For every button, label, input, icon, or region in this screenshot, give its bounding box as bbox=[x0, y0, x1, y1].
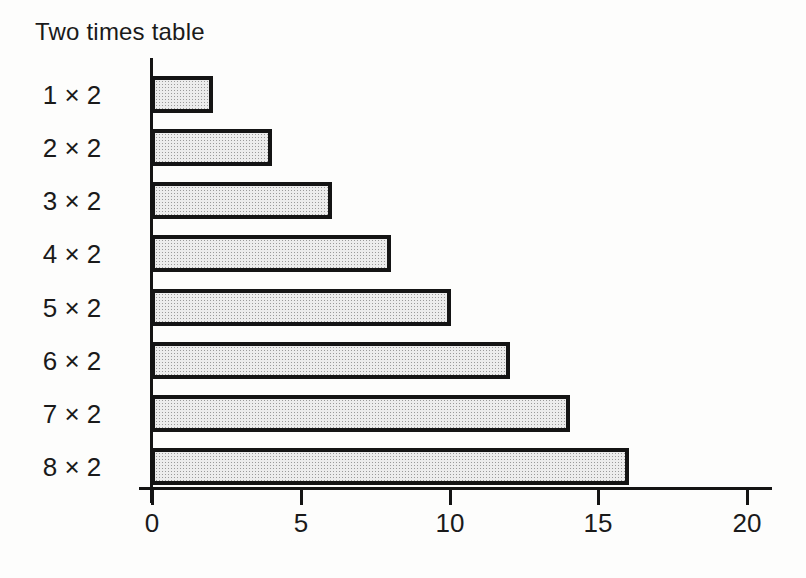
bar bbox=[151, 342, 510, 379]
y-axis-line bbox=[150, 58, 153, 503]
x-tick bbox=[597, 489, 600, 505]
category-label: 3 × 2 bbox=[22, 186, 122, 217]
chart-page: Two times table 1 × 22 × 23 × 24 × 25 × … bbox=[0, 0, 806, 578]
bar bbox=[151, 448, 629, 485]
x-tick-label: 10 bbox=[420, 508, 480, 539]
bar bbox=[151, 129, 272, 166]
x-axis-line bbox=[139, 487, 772, 490]
category-label: 5 × 2 bbox=[22, 293, 122, 324]
category-label: 8 × 2 bbox=[22, 452, 122, 483]
category-label: 6 × 2 bbox=[22, 346, 122, 377]
bar bbox=[151, 182, 332, 219]
x-tick-label: 15 bbox=[568, 508, 628, 539]
category-label: 2 × 2 bbox=[22, 133, 122, 164]
x-tick bbox=[449, 489, 452, 505]
category-label: 1 × 2 bbox=[22, 80, 122, 111]
bar bbox=[151, 395, 570, 432]
x-tick-label: 5 bbox=[271, 508, 331, 539]
bar bbox=[151, 289, 451, 326]
x-tick-label: 20 bbox=[717, 508, 777, 539]
bar bbox=[151, 76, 213, 113]
bar-chart: 1 × 22 × 23 × 24 × 25 × 26 × 27 × 28 × 2… bbox=[0, 0, 806, 578]
x-tick-label: 0 bbox=[122, 508, 182, 539]
bar bbox=[151, 235, 391, 272]
category-label: 7 × 2 bbox=[22, 399, 122, 430]
x-tick bbox=[300, 489, 303, 505]
category-label: 4 × 2 bbox=[22, 239, 122, 270]
x-tick bbox=[151, 489, 154, 505]
x-tick bbox=[746, 489, 749, 505]
